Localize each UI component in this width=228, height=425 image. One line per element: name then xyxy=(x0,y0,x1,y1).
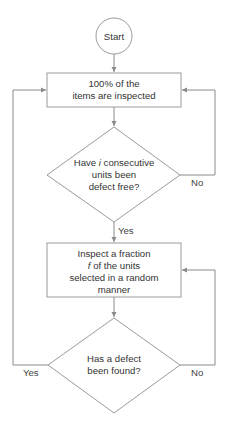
decision-consecutive-line-2: units been xyxy=(92,169,136,180)
inspect-fraction-line-2: f of the units xyxy=(88,260,140,271)
edge-label-no-consecutive: No xyxy=(191,177,203,188)
start-label: Start xyxy=(104,31,125,42)
flowchart: Start 100% of the items are inspected Ha… xyxy=(0,0,228,425)
inspect-fraction-line-1: Inspect a fraction xyxy=(77,248,150,259)
inspect-all-line-2: items are inspected xyxy=(72,90,155,101)
edge-label-yes-defect: Yes xyxy=(23,367,39,378)
node-start: Start xyxy=(96,18,132,54)
node-decision-defect: Has a defect been found? xyxy=(48,318,180,413)
edge-defect-no-loop xyxy=(180,270,215,365)
edge-consecutive-no-loop xyxy=(180,90,215,175)
inspect-fraction-line-4: manner xyxy=(98,284,131,295)
inspect-fraction-line-3: selected in a random xyxy=(69,272,158,283)
edge-label-yes-consecutive: Yes xyxy=(118,225,134,236)
node-inspect-all: 100% of the items are inspected xyxy=(47,73,181,107)
decision-defect-line-2: been found? xyxy=(87,365,140,376)
node-inspect-fraction: Inspect a fraction f of the units select… xyxy=(47,243,181,297)
inspect-all-line-1: 100% of the xyxy=(88,78,139,89)
edge-defect-yes-loop xyxy=(13,90,48,365)
node-decision-consecutive: Have i consecutive units been defect fre… xyxy=(47,127,180,222)
decision-consecutive-line-3: defect free? xyxy=(89,181,140,192)
decision-defect-line-1: Has a defect xyxy=(87,353,141,364)
decision-consecutive-line-1: Have i consecutive xyxy=(74,157,155,168)
edge-label-no-defect: No xyxy=(191,367,203,378)
